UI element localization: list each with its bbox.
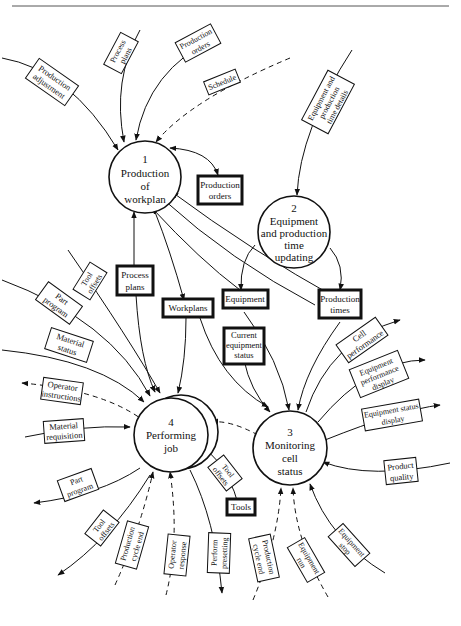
process-3-number: 3 — [287, 426, 293, 438]
flow-equipment-run[interactable]: Equipment run — [287, 538, 324, 583]
flow-production-cycle-end-3[interactable]: Production cycle end — [249, 534, 280, 582]
flow-tool-offsets-out[interactable]: Tool offsets — [85, 510, 119, 546]
process-2[interactable]: 2 Equipment and production time updating — [258, 196, 330, 268]
process-3-line-3: status — [277, 465, 302, 477]
process-4-number: 4 — [168, 416, 174, 428]
process-4-line-1: Performing — [146, 429, 197, 441]
flow-production-orders-in[interactable]: Production orders — [175, 24, 221, 62]
flow-operator-instructions[interactable]: Operator instructions — [41, 377, 84, 404]
flow-process-plans-in[interactable]: Process plans — [104, 32, 139, 73]
svg-text:Tools: Tools — [231, 502, 251, 512]
flow-equipment-time-details[interactable]: Equipment and production time details — [302, 70, 355, 134]
flow-product-quality[interactable]: Product quality — [384, 457, 418, 484]
svg-text:Current: Current — [231, 330, 258, 340]
process-2-number: 2 — [291, 202, 297, 214]
flow-production-cycle-end-4[interactable]: Production cycle end — [115, 521, 148, 569]
svg-text:Production: Production — [320, 294, 360, 304]
process-4-line-2: job — [163, 442, 179, 454]
svg-text:Production: Production — [200, 180, 240, 190]
store-current-equipment-status[interactable]: Current equipment status — [224, 328, 264, 364]
process-1[interactable]: 1 Production of workplan — [109, 141, 181, 213]
flow-perform-presetting[interactable]: Perform presetting — [207, 533, 230, 574]
svg-text:Perform: Perform — [210, 539, 220, 566]
svg-text:plans: plans — [126, 282, 145, 292]
process-3-line-2: cell — [282, 452, 298, 464]
flow-cell-performance[interactable]: Cell performance — [336, 317, 388, 363]
svg-text:Workplans: Workplans — [169, 303, 208, 313]
flow-tool-offsets-tools[interactable]: Tool offsets — [208, 455, 242, 491]
svg-text:times: times — [330, 305, 350, 315]
process-1-line-2: of — [140, 180, 150, 192]
flow-production-adjustment[interactable]: Production adjustment — [25, 58, 78, 105]
process-3[interactable]: 3 Monitoring cell status — [253, 411, 327, 485]
store-production-orders[interactable]: Production orders — [198, 176, 242, 204]
flow-operator-response[interactable]: Operator response — [164, 534, 190, 576]
process-2-line-4: updating — [275, 251, 314, 263]
store-production-times[interactable]: Production times — [319, 290, 361, 318]
process-1-number: 1 — [142, 153, 148, 165]
svg-text:equipment: equipment — [226, 340, 263, 350]
store-tools[interactable]: Tools — [227, 499, 255, 515]
flow-part-program-out[interactable]: Part program — [57, 469, 98, 502]
process-2-line-2: and production — [261, 227, 328, 239]
svg-text:presetting: presetting — [219, 537, 229, 569]
flow-material-status[interactable]: Material status — [45, 328, 94, 363]
flow-equipment-status-display[interactable]: Equipment status display — [362, 399, 423, 431]
process-2-line-3: time — [284, 239, 304, 251]
process-1-line-3: workplan — [124, 193, 166, 205]
store-workplans[interactable]: Workplans — [163, 299, 213, 317]
svg-text:orders: orders — [209, 191, 232, 201]
flow-equipment-stop[interactable]: Equipment stop — [328, 523, 370, 566]
flow-equipment-performance-display[interactable]: Equipment performance display — [349, 350, 408, 397]
process-3-line-1: Monitoring — [265, 439, 316, 451]
process-4[interactable]: 4 Performing job — [134, 395, 218, 472]
svg-text:Process: Process — [121, 270, 149, 280]
data-flow-diagram: 1 Production of workplan 2 Equipment and… — [0, 0, 461, 626]
store-equipment[interactable]: Equipment — [223, 290, 268, 308]
process-1-line-1: Production — [121, 167, 170, 179]
store-process-plans[interactable]: Process plans — [117, 266, 153, 295]
svg-text:status: status — [234, 350, 253, 360]
flow-tool-offsets-in[interactable]: Tool offsets — [73, 262, 107, 300]
flow-material-requisition[interactable]: Material requisition — [43, 419, 84, 444]
svg-text:Equipment: Equipment — [225, 294, 265, 304]
process-2-line-1: Equipment — [270, 215, 318, 227]
